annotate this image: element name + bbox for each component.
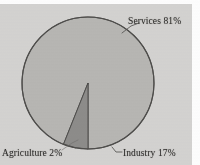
pie-chart-figure: Services 81% Agriculture 2% Industry 17%: [0, 0, 200, 165]
pie-label-services: Services 81%: [128, 16, 181, 27]
leader-line-industry: [112, 147, 122, 152]
pie-label-industry: Industry 17%: [123, 148, 176, 159]
pie-label-agriculture: Agriculture 2%: [2, 148, 62, 159]
